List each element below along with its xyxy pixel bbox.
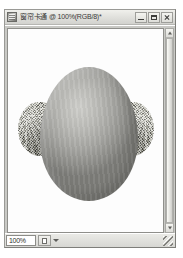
photoshop-document-window[interactable]: 窗帘卡通 @ 100%(RGB/8)* [4, 9, 176, 248]
document-area [5, 25, 175, 233]
vertical-scrollbar-thumb[interactable] [166, 38, 173, 223]
vertical-scrollbar[interactable] [165, 28, 174, 233]
photoshop-document-icon [7, 12, 17, 22]
minimize-icon [136, 13, 146, 22]
scroll-up-arrow-icon[interactable] [166, 29, 173, 38]
artwork-oval-body [40, 67, 138, 201]
window-controls [135, 12, 173, 23]
close-button[interactable] [161, 12, 173, 23]
scroll-down-arrow-icon[interactable] [166, 223, 173, 232]
document-size-button[interactable] [38, 235, 51, 246]
canvas-viewport[interactable] [7, 28, 164, 233]
title-bar[interactable]: 窗帘卡通 @ 100%(RGB/8)* [5, 10, 175, 25]
maximize-icon [149, 13, 159, 22]
image-canvas[interactable] [8, 29, 163, 232]
minimize-button[interactable] [135, 12, 147, 23]
chevron-down-icon[interactable] [53, 239, 59, 242]
close-icon [162, 13, 172, 22]
window-title: 窗帘卡通 @ 100%(RGB/8)* [20, 13, 133, 21]
maximize-button[interactable] [148, 12, 160, 23]
zoom-level-input[interactable]: 100% [6, 235, 36, 246]
status-bar: 100% [5, 233, 175, 247]
resize-grip[interactable] [163, 236, 173, 246]
